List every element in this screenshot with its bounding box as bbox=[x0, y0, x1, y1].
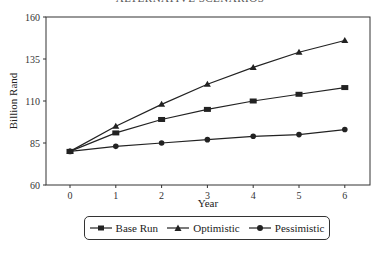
x-axis-title: Year bbox=[198, 197, 219, 209]
circle-marker-icon bbox=[113, 144, 119, 150]
legend-label: Optimistic bbox=[193, 222, 239, 234]
legend-label: Pessimistic bbox=[275, 222, 325, 234]
x-tick-label: 2 bbox=[159, 190, 164, 201]
y-axis-title: Billion Rand bbox=[7, 72, 19, 129]
y-tick-label: 60 bbox=[30, 180, 40, 191]
circle-marker-icon bbox=[159, 140, 165, 146]
circle-marker-icon bbox=[250, 133, 256, 139]
x-tick-label: 1 bbox=[113, 190, 118, 201]
x-tick-label: 6 bbox=[342, 190, 347, 201]
x-tick-label: 4 bbox=[251, 190, 256, 201]
square-marker-icon bbox=[296, 92, 303, 97]
square-marker-icon bbox=[90, 224, 112, 232]
circle-marker-icon bbox=[205, 137, 211, 143]
legend-item-base-run: Base Run bbox=[90, 222, 158, 234]
square-marker-icon bbox=[250, 99, 257, 104]
circle-marker-icon bbox=[296, 132, 302, 138]
x-tick-label: 5 bbox=[297, 190, 302, 201]
y-tick-label: 110 bbox=[25, 96, 40, 107]
legend-item-optimistic: Optimistic bbox=[167, 222, 239, 234]
y-tick-label: 85 bbox=[30, 138, 40, 149]
circle-marker-icon bbox=[67, 149, 73, 155]
circle-marker-icon bbox=[249, 224, 271, 232]
legend: Base Run Optimistic Pessimistic bbox=[84, 216, 330, 240]
legend-item-pessimistic: Pessimistic bbox=[249, 222, 325, 234]
y-tick-label: 135 bbox=[25, 54, 40, 65]
square-marker-icon bbox=[204, 107, 211, 112]
x-tick-label: 0 bbox=[68, 190, 73, 201]
plot-area bbox=[46, 17, 370, 185]
square-marker-icon bbox=[112, 130, 119, 135]
triangle-marker-icon bbox=[112, 123, 119, 129]
legend-label: Base Run bbox=[116, 222, 158, 234]
square-marker-icon bbox=[158, 117, 165, 122]
circle-marker-icon bbox=[342, 127, 348, 133]
y-tick-label: 160 bbox=[25, 12, 40, 23]
triangle-marker-icon bbox=[167, 224, 189, 232]
square-marker-icon bbox=[341, 85, 348, 90]
triangle-marker-icon bbox=[341, 37, 348, 43]
